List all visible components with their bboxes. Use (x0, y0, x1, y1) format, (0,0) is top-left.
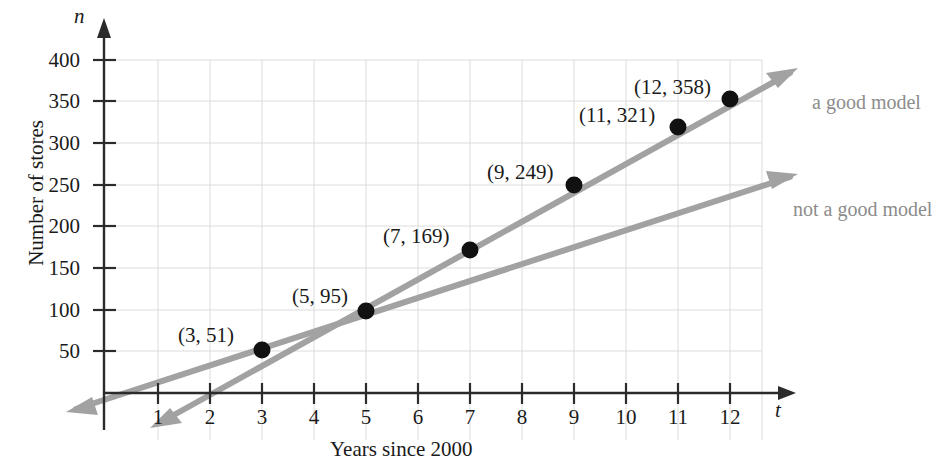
xtick-label-1: 1 (138, 405, 178, 430)
point-label-12-358: (12, 358) (634, 75, 711, 100)
ytick-label-350: 350 (10, 89, 80, 114)
xtick-label-11: 11 (658, 405, 698, 430)
y-axis-arrowhead (97, 18, 111, 38)
plot-area (0, 0, 932, 471)
annotation-not-good-model: not a good model (793, 198, 932, 221)
xtick-label-3: 3 (242, 405, 282, 430)
x-axis-variable: t (775, 398, 781, 423)
point-label-11-321: (11, 321) (579, 103, 655, 128)
xtick-label-12: 12 (710, 405, 750, 430)
data-point (722, 91, 739, 108)
point-label-9-249: (9, 249) (487, 160, 554, 185)
y-axis-variable: n (74, 4, 85, 29)
xtick-label-4: 4 (294, 405, 334, 430)
point-label-5-95: (5, 95) (292, 284, 348, 309)
data-point (670, 119, 687, 136)
xtick-label-8: 8 (502, 405, 542, 430)
xtick-label-10: 10 (606, 405, 646, 430)
data-point (254, 342, 271, 359)
y-axis-title: Number of stores (24, 120, 49, 266)
xtick-label-5: 5 (346, 405, 386, 430)
ytick-label-400: 400 (10, 48, 80, 73)
xtick-label-2: 2 (190, 405, 230, 430)
data-point (462, 242, 479, 259)
point-label-7-169: (7, 169) (383, 224, 450, 249)
grid-lines (106, 60, 762, 440)
data-point (358, 303, 375, 320)
point-label-3-51: (3, 51) (178, 323, 234, 348)
data-points (254, 91, 739, 359)
xtick-label-7: 7 (450, 405, 490, 430)
ytick-label-50: 50 (10, 339, 80, 364)
chart-figure: n t 400 350 300 250 200 150 100 50 1 2 3… (0, 0, 932, 471)
bad-model-arrow-left (66, 397, 98, 415)
bad-model-line (76, 177, 790, 409)
data-point (566, 177, 583, 194)
xtick-label-6: 6 (398, 405, 438, 430)
x-axis-title: Years since 2000 (330, 437, 473, 462)
xtick-label-9: 9 (554, 405, 594, 430)
y-axis-title-wrapper: Number of stores (0, 120, 30, 340)
annotation-good-model: a good model (812, 91, 921, 114)
